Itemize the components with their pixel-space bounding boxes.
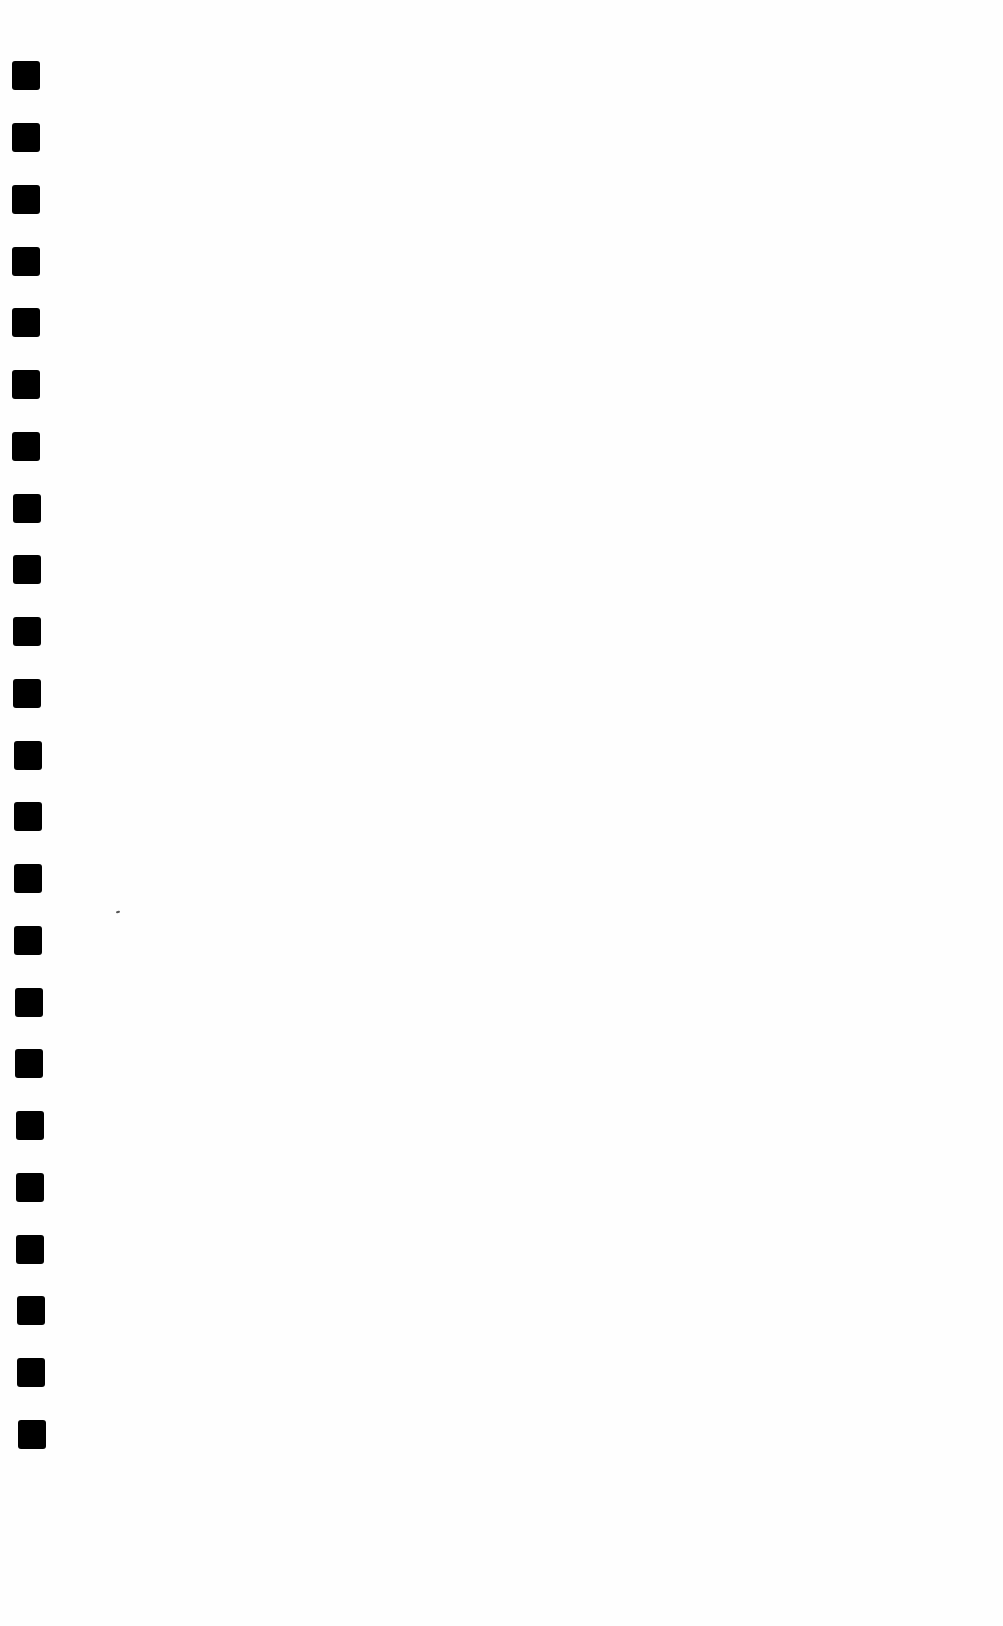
binding-hole-icon <box>16 1235 44 1264</box>
binding-hole-icon <box>12 432 40 461</box>
binding-hole-icon <box>12 123 40 152</box>
binding-hole-icon <box>16 1173 44 1202</box>
binding-hole-icon <box>14 864 42 893</box>
binding-hole-icon <box>18 1420 46 1449</box>
binding-hole-icon <box>12 247 40 276</box>
binding-hole-icon <box>12 61 40 90</box>
binding-hole-icon <box>17 1358 45 1387</box>
binding-hole-icon <box>12 185 40 214</box>
binding-hole-icon <box>13 617 41 646</box>
blank-page <box>0 0 1003 1626</box>
binding-hole-icon <box>16 1111 44 1140</box>
binding-hole-icon <box>15 1049 43 1078</box>
scan-speck <box>116 911 120 914</box>
binding-hole-icon <box>13 679 41 708</box>
binding-hole-icon <box>17 1296 45 1325</box>
binding-hole-icon <box>14 802 42 831</box>
binding-hole-icon <box>14 741 42 770</box>
binding-hole-icon <box>12 308 40 337</box>
binding-hole-icon <box>15 988 43 1017</box>
binding-hole-icon <box>13 555 41 584</box>
binding-hole-icon <box>14 926 42 955</box>
binding-hole-icon <box>12 370 40 399</box>
binding-hole-icon <box>13 494 41 523</box>
